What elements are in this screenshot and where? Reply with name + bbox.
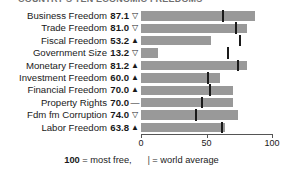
- row-label: Property Rights: [41, 97, 107, 109]
- row-label: Financial Freedom: [28, 84, 107, 96]
- row-track: [141, 22, 272, 34]
- row-label: Fiscal Freedom: [41, 35, 107, 47]
- chart-row: Fiscal Freedom53.2: [0, 35, 283, 47]
- chart-row: Fdm fm Corruption74.0: [0, 109, 283, 121]
- row-bar: [141, 24, 247, 33]
- row-label: Labor Freedom: [41, 122, 107, 134]
- world-average-marker: [235, 22, 237, 34]
- chart-row: Trade Freedom81.0: [0, 22, 283, 34]
- legend-score-lead: 100: [64, 155, 80, 165]
- row-bar: [141, 48, 158, 57]
- legend-score-text: = most free,: [80, 155, 132, 165]
- row-track: [141, 122, 272, 134]
- row-track: [141, 10, 272, 22]
- row-label: Business Freedom: [27, 10, 107, 22]
- row-track: [141, 60, 272, 72]
- row-bar: [141, 86, 233, 95]
- row-track: [141, 109, 272, 121]
- row-label: Monetary Freedom: [26, 60, 107, 72]
- chart-rows: Business Freedom87.1Trade Freedom81.0Fis…: [0, 10, 283, 134]
- row-bar: [141, 123, 225, 132]
- row-bar: [141, 98, 233, 107]
- row-score: 70.0: [107, 84, 129, 96]
- row-trend-down-icon: [130, 10, 140, 23]
- world-average-marker: [209, 84, 211, 96]
- row-trend-up-icon: [130, 72, 140, 85]
- row-trend-down-icon: [130, 22, 140, 35]
- row-track: [141, 47, 272, 59]
- world-average-marker: [227, 47, 229, 59]
- chart-row: Monetary Freedom81.2: [0, 60, 283, 72]
- row-track: [141, 84, 272, 96]
- row-track: [141, 97, 272, 109]
- world-average-marker: [207, 72, 209, 84]
- row-trend-up-icon: [130, 122, 140, 135]
- row-label: Fdm fm Corruption: [27, 109, 107, 121]
- row-score: 81.0: [107, 22, 129, 34]
- x-axis-tick-label: 50: [192, 138, 222, 149]
- row-trend-down-icon: [130, 47, 140, 60]
- world-average-marker: [237, 60, 239, 72]
- row-label: Trade Freedom: [41, 22, 107, 34]
- row-trend-down-icon: [130, 109, 140, 122]
- chart-title: COUNTRY'S TEN ECONOMIC FREEDOMS: [18, 0, 268, 3]
- world-average-marker: [195, 109, 197, 121]
- row-score: 13.2: [107, 47, 129, 59]
- legend-marker-text: = world average: [150, 155, 219, 165]
- row-trend-up-icon: [130, 60, 140, 73]
- row-trend-up-icon: [130, 84, 140, 97]
- row-track: [141, 35, 272, 47]
- row-score: 74.0: [107, 109, 129, 121]
- world-average-marker: [201, 97, 203, 109]
- row-score: 60.0: [107, 72, 129, 84]
- world-average-marker: [222, 10, 224, 22]
- chart-row: Business Freedom87.1: [0, 10, 283, 22]
- row-bar: [141, 110, 238, 119]
- row-label: Investment Freedom: [19, 72, 107, 84]
- chart-row: Government Size13.2: [0, 47, 283, 59]
- row-bar: [141, 36, 211, 45]
- row-score: 63.8: [107, 122, 129, 134]
- economic-freedoms-chart: COUNTRY'S TEN ECONOMIC FREEDOMS Business…: [0, 0, 283, 174]
- row-score: 87.1: [107, 10, 129, 22]
- row-score: 53.2: [107, 35, 129, 47]
- row-score: 70.0: [107, 97, 129, 109]
- row-label: Government Size: [33, 47, 107, 59]
- chart-row: Financial Freedom70.0: [0, 84, 283, 96]
- chart-legend: 100 = most free,| = world average: [0, 154, 283, 167]
- x-axis-tick-label: 0: [126, 138, 156, 149]
- row-trend-up-icon: [130, 35, 140, 48]
- row-bar: [141, 61, 247, 70]
- x-axis-tick-label: 100: [257, 138, 283, 149]
- chart-row: Labor Freedom63.8: [0, 122, 283, 134]
- chart-row: Property Rights70.0: [0, 97, 283, 109]
- world-average-marker: [221, 122, 223, 134]
- row-track: [141, 72, 272, 84]
- row-bar: [141, 11, 255, 20]
- row-score: 81.2: [107, 60, 129, 72]
- chart-row: Investment Freedom60.0: [0, 72, 283, 84]
- world-average-marker: [239, 35, 241, 47]
